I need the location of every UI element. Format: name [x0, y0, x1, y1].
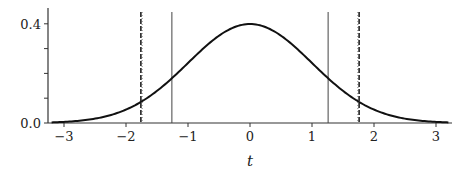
vertical-reference-lines	[141, 12, 359, 123]
y-tick-label: 0.0	[20, 116, 41, 131]
x-tick-label: −2	[116, 129, 135, 144]
axes: 0.00.4−3−2−10123	[20, 8, 452, 144]
density-curve	[52, 24, 449, 122]
x-tick-label: −3	[54, 129, 73, 144]
x-tick-label: −1	[178, 129, 197, 144]
x-tick-label: 0	[246, 129, 254, 144]
x-axis-label: t	[247, 152, 254, 170]
x-tick-label: 3	[432, 129, 440, 144]
normal-density-chart: 0.00.4−3−2−10123 t	[0, 0, 471, 175]
x-tick-label: 1	[308, 129, 316, 144]
x-tick-label: 2	[370, 129, 378, 144]
y-tick-label: 0.4	[20, 17, 41, 32]
